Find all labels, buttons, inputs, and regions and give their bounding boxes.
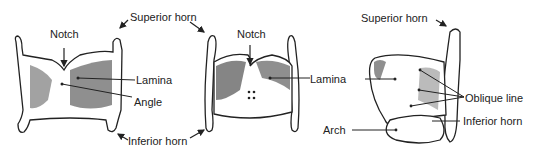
- label-superior-horn-shared: Superior horn: [130, 11, 197, 23]
- label-lamina-shared: Lamina: [310, 73, 346, 85]
- anterior-view-cartilage: [15, 36, 122, 132]
- diagram-artwork: [0, 0, 536, 155]
- label-notch-back: Notch: [237, 28, 266, 40]
- label-notch-front: Notch: [50, 28, 79, 40]
- label-lamina-front: Lamina: [136, 74, 172, 86]
- label-inferior-horn-side: Inferior horn: [463, 115, 522, 127]
- label-angle: Angle: [134, 96, 162, 108]
- label-inferior-horn-shared: Inferior horn: [128, 135, 187, 147]
- inferior-horn-pointer-left: [118, 134, 128, 140]
- superior-horn-side-pointer: [436, 20, 446, 26]
- inferior-horn-pointer-right: [190, 130, 204, 138]
- label-superior-horn-side: Superior horn: [361, 12, 428, 24]
- posterior-view-cartilage: [205, 36, 299, 132]
- label-oblique-line: Oblique line: [465, 92, 523, 104]
- superior-horn-pointer-left: [120, 20, 128, 28]
- label-arch: Arch: [323, 124, 346, 136]
- thyroid-cartilage-diagram: Notch Superior horn Lamina Angle Inferio…: [0, 0, 536, 155]
- superior-horn-pointer-right: [190, 22, 204, 32]
